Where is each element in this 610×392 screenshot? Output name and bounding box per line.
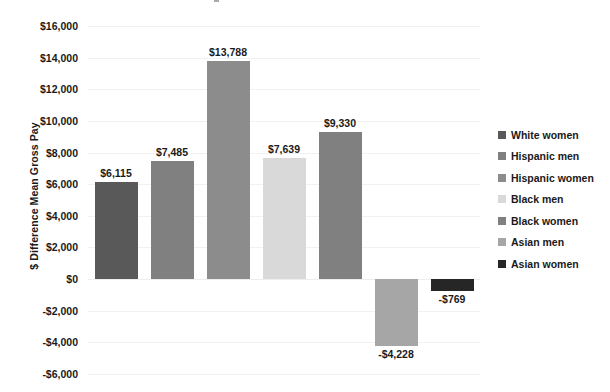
y-axis-tick-label: $10,000 — [40, 115, 78, 127]
legend-swatch-icon — [498, 174, 506, 182]
legend-label: Hispanic men — [511, 150, 579, 162]
legend-swatch-icon — [498, 260, 506, 268]
legend-item[interactable]: Asian men — [498, 232, 610, 254]
bar — [263, 158, 306, 279]
bar-value-label: -$769 — [439, 293, 466, 305]
legend-item[interactable]: White women — [498, 124, 610, 146]
bar — [431, 279, 474, 291]
legend-item[interactable]: Black women — [498, 210, 610, 232]
bar-value-label: $9,330 — [324, 117, 356, 129]
y-axis-tick-label: $2,000 — [46, 241, 78, 253]
y-axis-tick-label: $4,000 — [46, 210, 78, 222]
y-axis-tick-label: -$4,000 — [42, 336, 78, 348]
bar-series: $6,115$7,485$13,788$7,639$9,330-$4,228-$… — [88, 26, 480, 374]
legend-item[interactable]: Asian women — [498, 253, 610, 275]
y-axis-tick-labels: $16,000$14,000$12,000$10,000$8,000$6,000… — [0, 0, 84, 392]
legend-swatch-icon — [498, 131, 506, 139]
bar-value-label: $6,115 — [100, 167, 132, 179]
y-axis-tick-label: $14,000 — [40, 52, 78, 64]
plot-area: $6,115$7,485$13,788$7,639$9,330-$4,228-$… — [88, 26, 480, 374]
legend-swatch-icon — [498, 238, 506, 246]
legend-item[interactable]: Hispanic men — [498, 146, 610, 168]
bar-chart: $ Difference Mean Gross Pay $16,000$14,0… — [0, 0, 610, 392]
legend-item[interactable]: Hispanic women — [498, 167, 610, 189]
legend-label: White women — [511, 129, 579, 141]
bar — [319, 132, 362, 280]
legend-label: Black women — [511, 215, 578, 227]
bar-value-label: $7,639 — [268, 143, 300, 155]
y-axis-tick-label: $16,000 — [40, 20, 78, 32]
y-axis-tick-label: $0 — [66, 273, 78, 285]
legend: White womenHispanic menHispanic womenBla… — [498, 124, 610, 275]
y-axis-tick-label: -$6,000 — [42, 368, 78, 380]
legend-label: Black men — [511, 193, 564, 205]
y-axis-tick-label: -$2,000 — [42, 305, 78, 317]
bar-value-label: -$4,228 — [378, 348, 414, 360]
y-axis-tick-label: $12,000 — [40, 83, 78, 95]
legend-swatch-icon — [498, 152, 506, 160]
bar — [207, 61, 250, 279]
legend-label: Asian women — [511, 258, 579, 270]
bar — [375, 279, 418, 346]
bar — [151, 161, 194, 279]
bar-value-label: $7,485 — [156, 146, 188, 158]
y-axis-tick-label: $6,000 — [46, 178, 78, 190]
cropped-title-artifact — [214, 0, 219, 2]
legend-swatch-icon — [498, 195, 506, 203]
bar-value-label: $13,788 — [209, 46, 247, 58]
bar — [95, 182, 138, 279]
legend-item[interactable]: Black men — [498, 189, 610, 211]
y-axis-tick-label: $8,000 — [46, 147, 78, 159]
legend-label: Asian men — [511, 236, 564, 248]
legend-label: Hispanic women — [511, 172, 594, 184]
gridline — [88, 374, 480, 375]
legend-swatch-icon — [498, 217, 506, 225]
